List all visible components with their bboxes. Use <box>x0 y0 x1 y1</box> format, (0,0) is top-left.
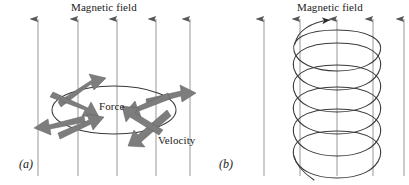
panel-b-caption: (b) <box>219 157 233 172</box>
figure-canvas <box>0 0 409 185</box>
panel-a-magnetic-field-label: Magnetic field <box>71 1 137 13</box>
panel-a-caption: (a) <box>19 157 33 172</box>
panel-b-magnetic-field-label: Magnetic field <box>297 1 363 13</box>
velocity-label: Velocity <box>158 134 195 146</box>
force-label: Force <box>99 100 125 112</box>
physics-figure: Magnetic field Force Velocity (a) Magnet… <box>0 0 409 185</box>
